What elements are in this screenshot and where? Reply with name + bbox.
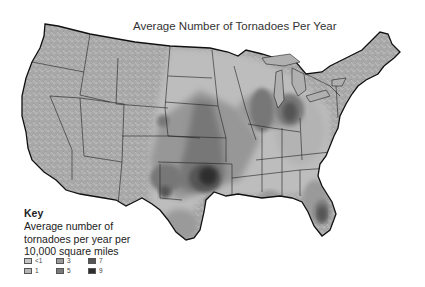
legend-swatch xyxy=(88,258,96,264)
map-key: Key Average number of tornadoes per year… xyxy=(24,207,144,258)
key-heading: Key xyxy=(24,207,144,220)
key-description: Average number of tornadoes per year per… xyxy=(24,220,144,258)
legend-swatch xyxy=(56,258,64,264)
legend-label: 5 xyxy=(67,267,71,274)
legend-item-9: 9 xyxy=(88,267,103,274)
legend-swatch xyxy=(24,268,32,274)
legend-item-7: 7 xyxy=(88,257,103,264)
legend-item-5: 5 xyxy=(56,267,71,274)
legend-label: 1 xyxy=(35,267,39,274)
legend-item-lt1: <1 xyxy=(24,257,42,264)
legend: <1 1 3 5 7 9 xyxy=(24,257,119,279)
legend-label: 9 xyxy=(99,267,103,274)
legend-swatch xyxy=(56,268,64,274)
legend-item-1: 1 xyxy=(24,267,39,274)
legend-item-3: 3 xyxy=(56,257,71,264)
legend-swatch xyxy=(88,268,96,274)
legend-label: <1 xyxy=(35,257,42,264)
legend-label: 7 xyxy=(99,257,103,264)
legend-label: 3 xyxy=(67,257,71,264)
legend-swatch xyxy=(24,258,32,264)
